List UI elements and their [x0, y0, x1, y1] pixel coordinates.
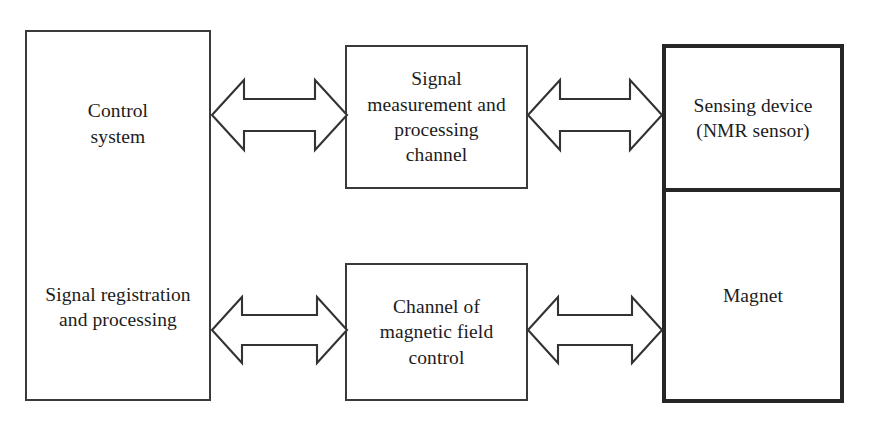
block-diagram-canvas: Control system Signal registration and p…: [0, 0, 871, 426]
block-signal-registration: Signal registration and processing: [27, 216, 209, 400]
signal-measurement-label: Signal measurement and processing channe…: [367, 66, 506, 167]
arrow-signal-registration-to-magnetic-channel: [211, 294, 348, 366]
arrow-magnetic-channel-to-magnet: [527, 294, 663, 366]
signal-registration-label: Signal registration and processing: [45, 282, 190, 333]
control-system-label: Control system: [88, 98, 148, 149]
block-magnet: Magnet: [666, 192, 840, 399]
magnetic-field-channel-label: Channel of magnetic field control: [380, 294, 493, 370]
block-magnetic-field-channel: Channel of magnetic field control: [345, 263, 528, 401]
sensor-and-magnet-block: Sensing device (NMR sensor) Magnet: [662, 44, 844, 403]
sensing-device-label: Sensing device (NMR sensor): [694, 93, 813, 144]
arrow-control-to-signal-measurement: [211, 76, 348, 154]
control-and-registration-block: Control system Signal registration and p…: [25, 30, 211, 401]
block-signal-measurement-channel: Signal measurement and processing channe…: [345, 45, 528, 189]
magnet-label: Magnet: [723, 283, 783, 308]
block-sensing-device: Sensing device (NMR sensor): [666, 48, 840, 192]
block-control-system: Control system: [27, 32, 209, 216]
arrow-signal-measurement-to-sensing-device: [527, 76, 663, 154]
